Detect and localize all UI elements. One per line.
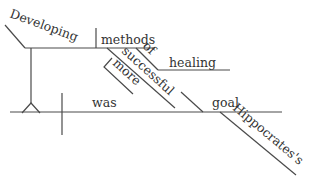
gerund-slant-line <box>5 25 25 48</box>
word-developing: Developing <box>8 6 80 45</box>
sentence-diagram: Developing methods of healing successful… <box>0 0 312 181</box>
predicate-divider <box>181 92 203 112</box>
word-hippocrates: Hippocrates's <box>230 100 307 168</box>
word-healing: healing <box>169 55 216 70</box>
word-was: was <box>92 95 117 110</box>
